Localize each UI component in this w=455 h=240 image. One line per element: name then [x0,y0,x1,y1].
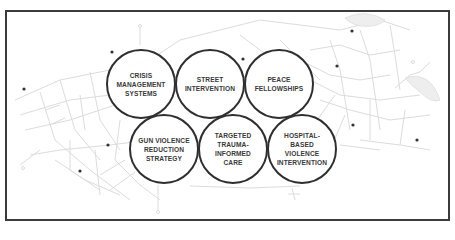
circle-gun-violence-reduction-strategy: GUN VIOLENCE REDUCTION STRATEGY [129,114,199,184]
circle-street-intervention: STREET INTERVENTION [175,49,245,119]
circle-label: STREET INTERVENTION [185,75,235,93]
circle-label: HOSPITAL- BASED VIOLENCE INTERVENTION [277,131,327,167]
circle-label: PEACE FELLOWSHIPS [255,75,304,93]
circle-label: GUN VIOLENCE REDUCTION STRATEGY [138,136,189,163]
circle-label: TARGETED TRAUMA- INFORMED CARE [215,131,252,167]
circle-targeted-trauma-informed-care: TARGETED TRAUMA- INFORMED CARE [198,114,268,184]
circle-label: CRISIS MANAGEMENT SYSTEMS [117,71,166,98]
circle-hospital-based-violence-intervention: HOSPITAL- BASED VIOLENCE INTERVENTION [267,114,337,184]
circle-peace-fellowships: PEACE FELLOWSHIPS [244,49,314,119]
circle-crisis-management-systems: CRISIS MANAGEMENT SYSTEMS [106,49,176,119]
